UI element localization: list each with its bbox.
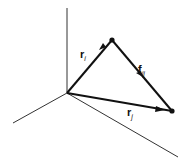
vector-r-i xyxy=(67,40,112,93)
label-f-ij: fij xyxy=(138,64,145,77)
label-r-j-sub: j xyxy=(131,113,133,120)
point-i xyxy=(109,37,114,42)
x-axis xyxy=(13,93,67,123)
label-f-ij-sub: ij xyxy=(142,70,145,77)
diagram-svg xyxy=(0,0,187,166)
point-j xyxy=(169,108,174,113)
label-r-j: rj xyxy=(127,107,133,120)
label-r-i-sub: i xyxy=(84,55,86,62)
label-r-i: ri xyxy=(80,49,86,62)
vector-diagram: ri fij rj xyxy=(0,0,187,166)
